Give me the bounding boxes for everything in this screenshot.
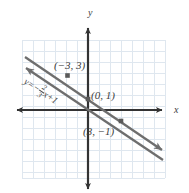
point-marker-b	[86, 97, 91, 102]
point-marker-a	[65, 73, 70, 78]
x-axis-label: x	[174, 105, 178, 115]
point-label-0-1: (0, 1)	[91, 90, 115, 101]
y-axis-label: y	[88, 8, 92, 18]
graph-figure: y x (−3, 3) (0, 1) (3, −1) y=−23x+1	[0, 0, 189, 193]
point-label-neg3-3: (−3, 3)	[54, 60, 85, 71]
point-label-3-neg1: (3, −1)	[83, 126, 114, 137]
plotted-line	[25, 57, 163, 160]
point-marker-c	[119, 119, 124, 124]
axes	[17, 28, 162, 189]
